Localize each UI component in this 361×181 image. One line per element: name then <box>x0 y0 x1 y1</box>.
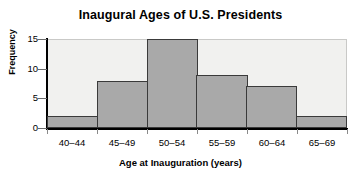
y-tick-mark <box>38 98 47 99</box>
x-tick-label: 50–54 <box>147 137 197 148</box>
x-tick-mark <box>97 129 98 134</box>
bar-1 <box>97 81 148 128</box>
x-tick-label: 65–69 <box>297 137 347 148</box>
x-tick-mark <box>347 129 348 134</box>
bar-0 <box>47 116 98 128</box>
bar-series <box>47 39 347 128</box>
x-tick-mark <box>147 129 148 134</box>
x-tick-mark <box>197 129 198 134</box>
bar-2 <box>147 39 198 128</box>
y-tick-label: 15 <box>18 33 38 44</box>
x-tick-label-row: 40–44 45–49 50–54 55–59 60–64 65–69 <box>47 137 347 148</box>
y-axis-label: Frequency <box>7 12 17 92</box>
chart-title: Inaugural Ages of U.S. Presidents <box>0 8 361 22</box>
x-tick-mark <box>247 129 248 134</box>
bar-3 <box>196 75 247 128</box>
histogram-figure: Inaugural Ages of U.S. Presidents Freque… <box>0 0 361 181</box>
x-tick-label: 40–44 <box>47 137 97 148</box>
bar-4 <box>246 86 297 128</box>
x-tick-label: 60–64 <box>247 137 297 148</box>
bar-5 <box>296 116 347 128</box>
y-tick-mark <box>38 128 47 129</box>
x-axis-label: Age at Inauguration (years) <box>0 157 361 168</box>
y-tick-mark <box>38 69 47 70</box>
y-tick-label: 10 <box>18 63 38 74</box>
x-tick-label: 45–49 <box>97 137 147 148</box>
x-tick-mark <box>297 129 298 134</box>
y-tick-label: 5 <box>18 92 38 103</box>
x-tick-mark <box>47 129 48 134</box>
y-tick-mark <box>38 39 47 40</box>
x-tick-label: 55–59 <box>197 137 247 148</box>
y-tick-label: 0 <box>18 122 38 133</box>
